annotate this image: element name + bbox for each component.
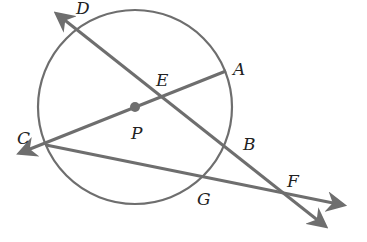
label-p: P bbox=[130, 123, 143, 143]
chord-ac bbox=[20, 71, 226, 153]
label-a: A bbox=[231, 59, 245, 79]
geometry-diagram: D E A P C B G F bbox=[0, 0, 367, 242]
label-g: G bbox=[197, 189, 211, 209]
center-point-p bbox=[130, 102, 140, 112]
label-d: D bbox=[75, 0, 90, 18]
label-b: B bbox=[242, 134, 256, 154]
label-e: E bbox=[155, 70, 169, 90]
label-c: C bbox=[17, 128, 30, 148]
label-f: F bbox=[286, 171, 300, 191]
